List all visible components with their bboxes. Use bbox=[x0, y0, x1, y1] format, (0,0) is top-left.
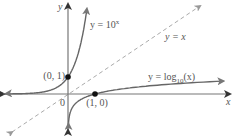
series-label-exponential: y = 10x bbox=[90, 18, 120, 30]
point-1-0 bbox=[92, 91, 98, 97]
point-label-1-0: (1, 0) bbox=[86, 97, 108, 109]
series-label-logarithm-tail: (x) bbox=[183, 71, 195, 83]
series-line-exponential bbox=[3, 9, 87, 94]
series-label-y-equals-x: y = x bbox=[164, 31, 186, 42]
point-label-0-1: (0, 1) bbox=[43, 70, 65, 82]
series-label-exponential-main: y = 10 bbox=[90, 19, 116, 30]
x-axis-label: x bbox=[225, 96, 231, 107]
series-label-logarithm-main: y = log bbox=[148, 71, 176, 82]
origin-label: 0 bbox=[60, 97, 65, 108]
series-label-exponential-sup: x bbox=[116, 18, 120, 26]
point-0-1 bbox=[65, 74, 71, 80]
chart: (0, 1) (1, 0) 0 y x y = 10x y = x y = lo… bbox=[0, 0, 234, 136]
y-axis-label: y bbox=[57, 1, 63, 12]
